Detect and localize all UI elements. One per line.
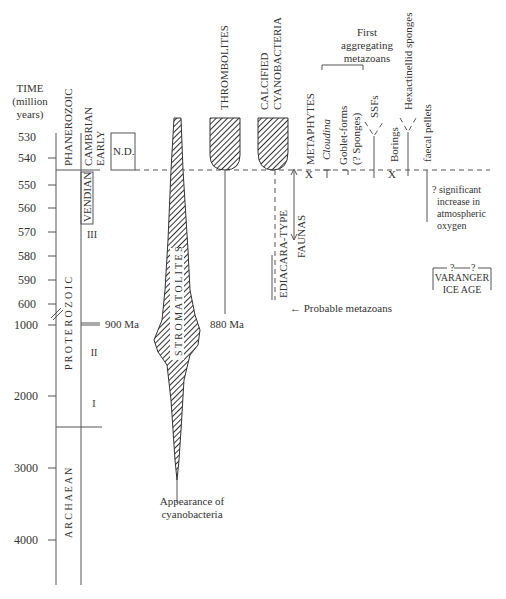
ssfs-label: SSFs bbox=[368, 95, 380, 118]
tick-label: 550 bbox=[18, 178, 36, 192]
tick-label: 4000 bbox=[14, 533, 38, 547]
label-880ma: 880 Ma bbox=[210, 318, 244, 330]
eon-archaean: A R C H A E A N bbox=[63, 468, 74, 538]
borings-label: Borings bbox=[388, 127, 400, 162]
first-aggregating-label-2: aggregating bbox=[341, 39, 393, 51]
tick-label: 2000 bbox=[14, 389, 38, 403]
nd-label: N.D. bbox=[113, 145, 135, 157]
first-aggregating-bracket bbox=[322, 65, 363, 70]
eon-phanerozoic: PHANEROZOIC bbox=[62, 88, 74, 166]
period-early: EARLY bbox=[94, 130, 106, 166]
metaphytes-label: METAPHYTES bbox=[304, 93, 316, 165]
cyanobacteria-label-2: cyanobacteria bbox=[161, 508, 222, 520]
varanger-label: VARANGER bbox=[435, 272, 490, 283]
axis-title: TIME bbox=[17, 82, 44, 94]
roman-ii: II bbox=[91, 347, 98, 358]
stromatolites-label: S T R O M A T O L I T E S bbox=[173, 246, 184, 356]
tick-label: 590 bbox=[18, 273, 36, 287]
calcified-label-2: CYANOBACTERIA bbox=[271, 17, 283, 110]
first-aggregating-label-3: metazoans bbox=[344, 52, 390, 64]
label-900ma: 900 Ma bbox=[105, 318, 139, 330]
period-cambrian: CAMBRIAN bbox=[82, 107, 94, 166]
axis-title-2: (million bbox=[12, 95, 48, 108]
goblet-forms-label: Goblet-forms bbox=[337, 106, 349, 165]
oxygen-label-2: increase in bbox=[437, 196, 480, 207]
faunas-label: FAUNAS bbox=[295, 215, 307, 258]
first-aggregating-label: First bbox=[357, 26, 377, 38]
period-vendian: VENDIAN bbox=[81, 172, 93, 222]
thrombolites-shape bbox=[210, 118, 240, 170]
geologic-timeline-diagram: TIME (million years) 530 540 550 560 570… bbox=[0, 0, 506, 599]
tick-label: 560 bbox=[18, 201, 36, 215]
goblet-forms-label-2: (? Sponges) bbox=[350, 112, 363, 165]
roman-iii: III bbox=[87, 229, 97, 240]
cyanobacteria-label: Appearance of bbox=[160, 495, 225, 507]
cloudina-label: Cloudina bbox=[320, 119, 332, 160]
oxygen-label: ? significant bbox=[432, 184, 481, 195]
hexactinellid-label: Hexactinellid sponges bbox=[402, 13, 414, 110]
axis-title-3: years) bbox=[17, 108, 44, 121]
tick-label: 1000 bbox=[14, 318, 38, 332]
tick-label: 580 bbox=[18, 249, 36, 263]
ediacara-label: EDIACARA-TYPE bbox=[277, 210, 289, 298]
roman-i: I bbox=[92, 398, 95, 409]
tick-label: 570 bbox=[18, 225, 36, 239]
oxygen-label-4: oxygen bbox=[437, 220, 466, 231]
tick-label: 3000 bbox=[14, 461, 38, 475]
metaphytes-x-mark: X bbox=[305, 168, 313, 180]
oxygen-label-3: atmospheric bbox=[437, 208, 486, 219]
calcified-cyanobacteria-shape bbox=[258, 118, 288, 170]
thrombolites-label: THROMBOLITES bbox=[218, 25, 230, 110]
varanger-label-2: ICE AGE bbox=[443, 284, 482, 295]
calcified-label: CALCIFIED bbox=[258, 53, 270, 111]
probable-metazoans-label: ← Probable metazoans bbox=[290, 302, 392, 314]
borings-x-mark: X bbox=[388, 168, 396, 180]
tick-label: 600 bbox=[18, 297, 36, 311]
faecal-pellets-label: faecal pellets bbox=[421, 104, 433, 162]
tick-label: 530 bbox=[18, 130, 36, 144]
tick-label: 540 bbox=[18, 151, 36, 165]
eon-proterozoic: P R O T E R O Z O I C bbox=[63, 277, 74, 370]
